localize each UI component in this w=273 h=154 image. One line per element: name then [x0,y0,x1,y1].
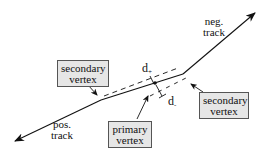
d-minus-label: d- [168,95,176,111]
primary-vertex-dot [153,81,157,85]
primary-vertex-box: primary vertex [108,121,152,148]
d-plus-sub: + [148,68,152,76]
primary-vertex-pointer [137,96,148,119]
neg-track-label-line2: track [201,27,227,38]
d-minus-sub: - [174,101,176,109]
secondary-vertex-left-line2: vertex [61,74,105,85]
secondary-vertex-right-box: secondary vertex [199,92,249,119]
pos-track-label: pos. track [49,119,75,141]
d-minus-tick [159,94,166,98]
dashed-extrapolation-upper [104,68,178,96]
neg-track-label: neg. track [201,16,227,38]
secondary-vertex-right-line2: vertex [203,106,245,117]
secondary-vertex-right-pointer [191,84,203,92]
d-plus-label: d+ [142,62,152,78]
primary-vertex-line2: vertex [112,135,148,146]
secondary-vertex-left-box: secondary vertex [57,60,109,87]
pos-track-label-line2: track [49,130,75,141]
